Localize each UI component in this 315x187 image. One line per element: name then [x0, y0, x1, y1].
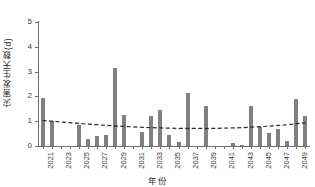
bar — [177, 142, 181, 146]
y-tick-label: 2 — [28, 90, 32, 101]
bar — [95, 136, 99, 146]
x-tick-mark — [160, 146, 161, 149]
x-tick-mark — [115, 146, 116, 149]
x-tick-label: 2023 — [64, 152, 73, 169]
x-tick-label: 2047 — [282, 152, 291, 169]
bar — [113, 68, 117, 146]
x-tick-mark — [151, 146, 152, 149]
x-tick-label: 2031 — [137, 152, 146, 169]
y-tick-label: 5 — [28, 16, 32, 27]
x-tick-mark — [133, 146, 134, 149]
bar — [267, 133, 271, 146]
bar — [167, 135, 171, 146]
bar — [86, 139, 90, 146]
y-axis-title: 灾害发生天数(d) — [2, 38, 14, 107]
x-tick-mark — [124, 146, 125, 149]
x-tick-label: 2037 — [191, 152, 200, 169]
y-tick-label: 3 — [28, 66, 32, 77]
x-axis-title: 年份 — [0, 174, 315, 186]
x-tick-mark — [106, 146, 107, 149]
bar — [50, 121, 54, 146]
x-tick-mark — [52, 146, 53, 149]
x-tick-mark — [179, 146, 180, 149]
x-tick-mark — [278, 146, 279, 149]
x-tick-mark — [142, 146, 143, 149]
x-tick-mark — [188, 146, 189, 149]
x-tick-mark — [242, 146, 243, 149]
x-tick-mark — [260, 146, 261, 149]
x-tick-mark — [70, 146, 71, 149]
x-tick-mark — [224, 146, 225, 149]
x-tick-label: 2049 — [300, 152, 309, 169]
bar — [249, 106, 253, 146]
x-tick-label: 2025 — [82, 152, 91, 169]
x-tick-mark — [197, 146, 198, 149]
x-tick-mark — [296, 146, 297, 149]
x-tick-mark — [97, 146, 98, 149]
x-tick-mark — [169, 146, 170, 149]
bar — [104, 135, 108, 146]
bar — [294, 99, 298, 146]
y-tick-label: 0 — [28, 140, 32, 151]
x-tick-label: 2021 — [46, 152, 55, 169]
y-tick-mark — [35, 146, 38, 147]
bar — [240, 145, 244, 146]
bar — [303, 116, 307, 146]
bar — [122, 115, 126, 146]
bar — [258, 127, 262, 146]
bar — [140, 132, 144, 146]
x-tick-label: 2045 — [264, 152, 273, 169]
x-tick-label: 2041 — [227, 152, 236, 169]
x-tick-label: 2027 — [100, 152, 109, 169]
bar — [276, 129, 280, 146]
bar — [285, 141, 289, 146]
x-tick-label: 2043 — [246, 152, 255, 169]
x-tick-mark — [251, 146, 252, 149]
bar — [77, 125, 81, 146]
x-tick-label: 2029 — [119, 152, 128, 169]
x-tick-label: 2033 — [155, 152, 164, 169]
x-tick-label: 2039 — [209, 152, 218, 169]
x-tick-mark — [287, 146, 288, 149]
x-tick-label: 2035 — [173, 152, 182, 169]
y-tick-label: 4 — [28, 41, 32, 52]
y-tick-label: 1 — [28, 115, 32, 126]
bar — [204, 106, 208, 146]
bar-series — [38, 22, 310, 146]
x-tick-mark — [206, 146, 207, 149]
x-tick-mark — [269, 146, 270, 149]
bar — [149, 116, 153, 146]
x-tick-mark — [233, 146, 234, 149]
bar — [41, 98, 45, 146]
x-tick-mark — [215, 146, 216, 149]
x-tick-mark — [61, 146, 62, 149]
bar — [158, 110, 162, 146]
x-tick-mark — [88, 146, 89, 149]
bar — [231, 143, 235, 146]
x-tick-mark — [43, 146, 44, 149]
x-tick-mark — [305, 146, 306, 149]
x-tick-mark — [79, 146, 80, 149]
bar — [186, 93, 190, 146]
chart-container: 灾害发生天数(d) 012345 20212023202520272029203… — [0, 0, 315, 187]
